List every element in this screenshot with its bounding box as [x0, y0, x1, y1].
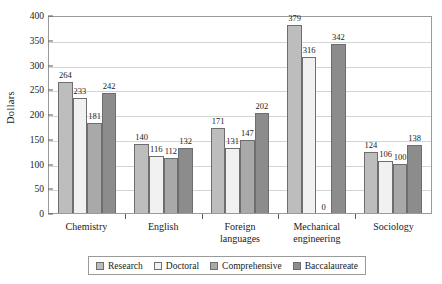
bar[interactable]: 233 — [73, 98, 88, 213]
bar[interactable]: 264 — [58, 82, 73, 213]
y-axis-title-text: Dollars — [5, 90, 16, 123]
chart-legend: ResearchDoctoralComprehensiveBaccalaurea… — [88, 256, 366, 275]
legend-swatch — [293, 262, 301, 270]
bar[interactable]: 147 — [240, 140, 255, 213]
y-tick-mark — [48, 16, 53, 17]
bar[interactable]: 116 — [149, 156, 164, 213]
bar-value-label: 171 — [212, 117, 225, 126]
y-axis-title: Dollars — [2, 0, 18, 214]
y-tick-mark — [48, 115, 53, 116]
y-tick-mark — [48, 189, 53, 190]
bar-value-label: 131 — [226, 137, 239, 146]
bar-slot: 140 — [134, 17, 149, 213]
bar-slot: 342 — [331, 17, 346, 213]
bar-chart: Dollars 050100150200250300350400 2642331… — [0, 0, 442, 284]
bar[interactable]: 242 — [102, 93, 117, 213]
bar[interactable]: 124 — [364, 152, 379, 213]
y-tick-label: 200 — [30, 110, 44, 120]
y-tick-label: 350 — [30, 36, 44, 46]
x-axis-label: Chemistry — [48, 221, 125, 244]
bar-slot: 264 — [58, 17, 73, 213]
bar-group: 171131147202 — [202, 17, 278, 213]
bar-value-label: 106 — [379, 150, 392, 159]
x-tick-mark — [202, 214, 203, 219]
y-tick-label: 150 — [30, 135, 44, 145]
bar-slot: 171 — [211, 17, 226, 213]
bar-value-label: 379 — [288, 14, 301, 23]
bar-value-label: 116 — [150, 145, 162, 154]
bar-slot: 112 — [164, 17, 179, 213]
bar[interactable]: 132 — [178, 148, 193, 213]
bar[interactable]: 131 — [225, 148, 240, 213]
bar-groups: 2642331812421401161121321711311472023793… — [49, 17, 431, 213]
bar[interactable]: 379 — [287, 25, 302, 213]
x-axis-label: Sociology — [355, 221, 432, 244]
bar-slot: 132 — [178, 17, 193, 213]
bar-slot: 147 — [240, 17, 255, 213]
bar-slot: 379 — [287, 17, 302, 213]
bar[interactable]: 112 — [164, 158, 179, 213]
bar[interactable]: 138 — [407, 145, 422, 213]
x-axis-label: Foreignlanguages — [202, 221, 279, 244]
legend-label: Comprehensive — [222, 261, 282, 271]
y-tick-label: 400 — [30, 11, 44, 21]
y-axis-ticks: 050100150200250300350400 — [18, 16, 44, 214]
bar-value-label: 233 — [74, 87, 87, 96]
bar-value-label: 202 — [256, 102, 269, 111]
bar-slot: 124 — [364, 17, 379, 213]
bar-value-label: 147 — [241, 129, 254, 138]
legend-item[interactable]: Baccalaureate — [293, 261, 358, 271]
bar-group: 264233181242 — [49, 17, 125, 213]
legend-label: Baccalaureate — [305, 261, 358, 271]
bar-slot: 106 — [378, 17, 393, 213]
x-axis-labels: ChemistryEnglishForeignlanguagesMechanic… — [48, 221, 432, 244]
y-tick-label: 300 — [30, 61, 44, 71]
bar-value-label: 138 — [408, 134, 421, 143]
y-tick-mark — [48, 139, 53, 140]
y-tick-mark — [48, 40, 53, 41]
bar-value-label: 316 — [303, 46, 316, 55]
y-tick-label: 100 — [30, 160, 44, 170]
bar[interactable]: 171 — [211, 128, 226, 213]
x-tick-mark — [125, 214, 126, 219]
y-tick-label: 250 — [30, 85, 44, 95]
bar-group: 140116112132 — [125, 17, 201, 213]
y-tick-mark — [48, 214, 53, 215]
x-tick-mark — [278, 214, 279, 219]
bar[interactable]: 100 — [393, 164, 408, 214]
legend-label: Doctoral — [166, 261, 199, 271]
bar-slot: 181 — [87, 17, 102, 213]
y-tick-mark — [48, 90, 53, 91]
bar[interactable]: 181 — [87, 123, 102, 213]
y-tick-label: 50 — [35, 184, 45, 194]
y-tick-mark — [48, 164, 53, 165]
legend-item[interactable]: Comprehensive — [210, 261, 282, 271]
bar[interactable]: 140 — [134, 144, 149, 213]
bar-value-label: 124 — [365, 141, 378, 150]
x-tick-mark — [355, 214, 356, 219]
legend-label: Research — [108, 261, 143, 271]
y-tick-mark — [48, 65, 53, 66]
bar-slot: 233 — [73, 17, 88, 213]
bar[interactable]: 106 — [378, 161, 393, 213]
bar-value-label: 0 — [322, 203, 326, 212]
y-tick-label: 0 — [39, 209, 44, 219]
legend-item[interactable]: Doctoral — [154, 261, 199, 271]
bar-value-label: 100 — [394, 153, 407, 162]
bar-value-label: 132 — [179, 137, 192, 146]
bar-group: 124106100138 — [355, 17, 431, 213]
bar-slot: 138 — [407, 17, 422, 213]
x-axis-label: Mechanicalengineering — [278, 221, 355, 244]
bar-slot: 316 — [302, 17, 317, 213]
legend-swatch — [96, 262, 104, 270]
bar[interactable]: 202 — [255, 113, 270, 213]
bar-value-label: 242 — [103, 82, 116, 91]
legend-item[interactable]: Research — [96, 261, 143, 271]
legend-swatch — [210, 262, 218, 270]
bar[interactable]: 342 — [331, 44, 346, 213]
bar-value-label: 112 — [165, 147, 177, 156]
bar[interactable]: 316 — [302, 57, 317, 213]
legend-swatch — [154, 262, 162, 270]
bar-value-label: 140 — [135, 133, 148, 142]
bar-slot: 116 — [149, 17, 164, 213]
